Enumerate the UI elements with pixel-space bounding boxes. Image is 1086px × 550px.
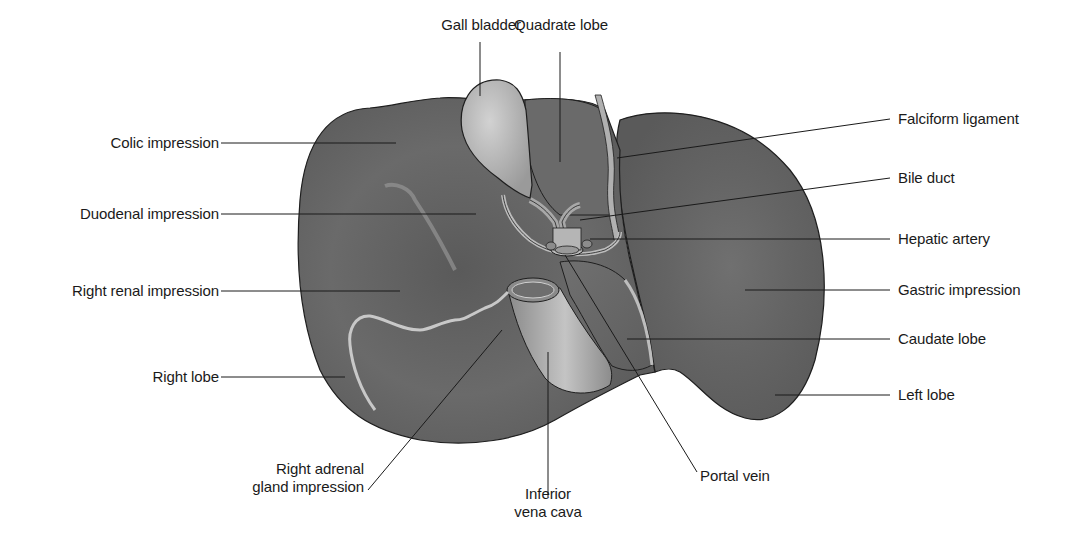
label-right-renal-impression: Right renal impression bbox=[72, 282, 219, 300]
label-duodenal-impression: Duodenal impression bbox=[80, 205, 219, 223]
label-colic-impression: Colic impression bbox=[111, 134, 219, 152]
liver-diagram bbox=[0, 0, 1086, 550]
label-right-adrenal-gland-impression: Right adrenal gland impression bbox=[252, 460, 364, 496]
label-left-lobe: Left lobe bbox=[898, 386, 955, 404]
label-right-adrenal-line1: Right adrenal bbox=[252, 460, 364, 478]
label-portal-vein: Portal vein bbox=[700, 467, 770, 485]
label-caudate-lobe: Caudate lobe bbox=[898, 330, 986, 348]
label-bile-duct: Bile duct bbox=[898, 169, 955, 187]
label-hepatic-artery: Hepatic artery bbox=[898, 230, 990, 248]
label-inferior-vena-cava: Inferior vena cava bbox=[508, 485, 588, 521]
label-quadrate-lobe: Quadrate lobe bbox=[505, 16, 617, 34]
label-falciform-ligament: Falciform ligament bbox=[898, 110, 1019, 128]
label-ivc-line1: Inferior bbox=[508, 485, 588, 503]
label-right-adrenal-line2: gland impression bbox=[252, 478, 364, 496]
label-ivc-line2: vena cava bbox=[508, 503, 588, 521]
label-gastric-impression: Gastric impression bbox=[898, 281, 1020, 299]
hepatic-artery-shape bbox=[546, 242, 556, 250]
label-right-lobe: Right lobe bbox=[152, 368, 219, 386]
